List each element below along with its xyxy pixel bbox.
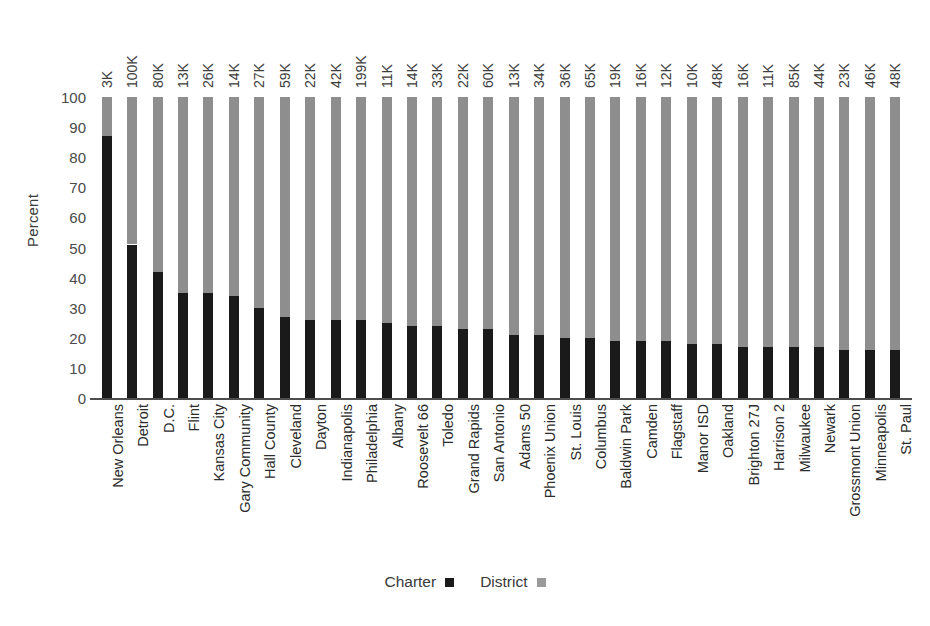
bar-segment-district — [661, 97, 671, 341]
bar-column[interactable] — [432, 97, 442, 398]
bar-column[interactable] — [534, 97, 544, 398]
x-axis-category-label: Detroit — [138, 404, 148, 447]
bar-segment-district — [534, 97, 544, 335]
bar-value-label: 44K — [814, 63, 824, 88]
bar-column[interactable] — [585, 97, 595, 398]
bar-column[interactable] — [178, 97, 188, 398]
bar-column[interactable] — [254, 97, 264, 398]
bar-column[interactable] — [789, 97, 799, 398]
bar-column[interactable] — [382, 97, 392, 398]
bar-segment-charter — [509, 335, 519, 398]
bar-value-label: 80K — [153, 63, 163, 88]
x-axis-category-label: Phoenix Union — [545, 404, 555, 498]
bar-segment-charter — [610, 341, 620, 398]
chart-legend: CharterDistrict — [0, 573, 930, 591]
bar-segment-charter — [432, 326, 442, 398]
bar-value-label: 100K — [127, 55, 137, 88]
bar-segment-charter — [585, 338, 595, 398]
y-axis-tick-label: 0 — [46, 391, 86, 406]
bar-value-label: 11K — [382, 64, 392, 88]
bar-segment-charter — [839, 350, 849, 398]
x-axis-category-label: D.C. — [164, 404, 174, 433]
bar-segment-district — [560, 97, 570, 338]
bar-column[interactable] — [712, 97, 722, 398]
bar-column[interactable] — [280, 97, 290, 398]
bar-segment-district — [153, 97, 163, 272]
x-axis-category-label: Flagstaff — [672, 404, 682, 459]
x-axis-line — [90, 398, 912, 400]
bar-column[interactable] — [509, 97, 519, 398]
bar-segment-district — [890, 97, 900, 350]
bar-column[interactable] — [127, 97, 137, 398]
bar-value-label: 42K — [331, 63, 341, 88]
bar-column[interactable] — [865, 97, 875, 398]
bar-column[interactable] — [636, 97, 646, 398]
bar-segment-charter — [153, 272, 163, 398]
bar-column[interactable] — [763, 97, 773, 398]
bar-segment-district — [203, 97, 213, 293]
bar-segment-charter — [407, 326, 417, 398]
x-axis-category-label: St. Paul — [901, 404, 911, 455]
bar-column[interactable] — [687, 97, 697, 398]
legend-item-district[interactable]: District — [480, 573, 545, 591]
bar-segment-charter — [814, 347, 824, 398]
bar-value-label: 19K — [610, 63, 620, 88]
bar-segment-district — [738, 97, 748, 347]
bar-segment-district — [839, 97, 849, 350]
bar-segment-district — [178, 97, 188, 293]
bar-value-label: 16K — [636, 63, 646, 88]
bar-column[interactable] — [560, 97, 570, 398]
bar-value-label: 13K — [178, 63, 188, 88]
x-axis-category-label: Camden — [647, 404, 657, 459]
bars-container — [94, 97, 908, 398]
bar-value-labels: 3K100K80K13K26K14K27K59K22K42K199K11K14K… — [94, 0, 908, 92]
bar-column[interactable] — [839, 97, 849, 398]
bar-column[interactable] — [102, 97, 112, 398]
bar-column[interactable] — [661, 97, 671, 398]
bar-column[interactable] — [814, 97, 824, 398]
bar-column[interactable] — [203, 97, 213, 398]
x-axis-category-label: Oakland — [723, 404, 733, 458]
bar-segment-district — [789, 97, 799, 347]
y-axis-tick-label: 90 — [46, 120, 86, 135]
y-axis-tick-label: 40 — [46, 270, 86, 285]
y-axis-tick-label: 20 — [46, 330, 86, 345]
bar-value-label: 16K — [738, 63, 748, 88]
bar-segment-district — [585, 97, 595, 338]
bar-column[interactable] — [407, 97, 417, 398]
bar-column[interactable] — [331, 97, 341, 398]
bar-column[interactable] — [890, 97, 900, 398]
bar-column[interactable] — [738, 97, 748, 398]
bar-value-label: 14K — [229, 63, 239, 88]
bar-column[interactable] — [356, 97, 366, 398]
bar-segment-district — [483, 97, 493, 329]
x-axis-category-label: San Antonio — [494, 404, 504, 482]
bar-column[interactable] — [153, 97, 163, 398]
bar-segment-district — [712, 97, 722, 344]
bar-value-label: 27K — [254, 63, 264, 88]
bar-segment-district — [458, 97, 468, 329]
bar-segment-district — [636, 97, 646, 341]
y-axis-title: Percent — [24, 161, 41, 281]
bar-segment-district — [254, 97, 264, 308]
x-axis-category-label: Albany — [393, 404, 403, 448]
x-axis-category-label: Grand Rapids — [469, 404, 479, 493]
bar-column[interactable] — [458, 97, 468, 398]
legend-item-charter[interactable]: Charter — [384, 573, 454, 591]
bar-column[interactable] — [305, 97, 315, 398]
bar-value-label: 13K — [509, 63, 519, 88]
bar-segment-charter — [865, 350, 875, 398]
bar-value-label: 59K — [280, 63, 290, 88]
bar-value-label: 199K — [356, 55, 366, 88]
bar-column[interactable] — [229, 97, 239, 398]
bar-column[interactable] — [483, 97, 493, 398]
bar-column[interactable] — [610, 97, 620, 398]
bar-value-label: 34K — [534, 63, 544, 88]
bar-segment-charter — [331, 320, 341, 398]
bar-segment-charter — [636, 341, 646, 398]
bar-segment-charter — [280, 317, 290, 398]
bar-segment-district — [127, 97, 137, 244]
bar-value-label: 65K — [585, 63, 595, 88]
legend-label: District — [480, 573, 527, 591]
bar-value-label: 12K — [661, 63, 671, 88]
